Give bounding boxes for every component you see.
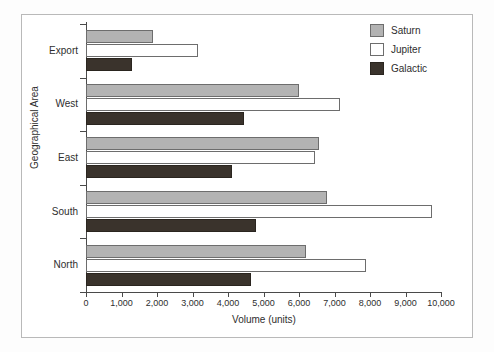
bar-jupiter-north — [86, 259, 366, 272]
x-axis-tick — [299, 292, 300, 297]
x-axis-tick-label: 6,000 — [288, 298, 311, 308]
y-axis-label-export: Export — [49, 45, 78, 56]
x-axis-tick-label: 7,000 — [323, 298, 346, 308]
x-axis-tick — [335, 292, 336, 297]
x-axis-tick — [157, 292, 158, 297]
legend-label: Jupiter — [391, 44, 421, 55]
bar-galactic-west — [86, 112, 244, 125]
legend-swatch-jupiter-icon — [370, 43, 384, 56]
x-axis-tick-label: 1,000 — [110, 298, 133, 308]
y-axis-tick — [80, 185, 87, 186]
bar-saturn-south — [86, 191, 327, 204]
x-axis-tick-label: 3,000 — [181, 298, 204, 308]
x-axis-tick — [122, 292, 123, 297]
legend-item-jupiter[interactable]: Jupiter — [370, 41, 462, 58]
x-axis-tick-label: 9,000 — [394, 298, 417, 308]
x-axis-title: Volume (units) — [86, 314, 442, 325]
bar-chart-figure: ExportWestEastSouthNorth Geographical Ar… — [0, 0, 494, 352]
y-axis-label-west: West — [55, 98, 78, 109]
bar-saturn-north — [86, 245, 306, 258]
y-axis-tick — [80, 78, 87, 79]
legend-swatch-saturn-icon — [370, 24, 384, 37]
bar-jupiter-south — [86, 205, 432, 218]
bar-group — [86, 238, 441, 292]
x-axis-tick-label: 2,000 — [146, 298, 169, 308]
bar-group — [86, 78, 441, 132]
y-axis-tick — [80, 131, 87, 132]
y-axis-title: Geographical Area — [29, 58, 40, 198]
bar-group — [86, 185, 441, 239]
x-axis-tick-label: 4,000 — [217, 298, 240, 308]
x-axis-tick — [264, 292, 265, 297]
y-axis-tick — [80, 24, 87, 25]
legend-label: Saturn — [391, 25, 420, 36]
chart-legend: SaturnJupiterGalactic — [370, 22, 462, 79]
x-axis-tick-label: 8,000 — [359, 298, 382, 308]
x-axis-tick-label: 5,000 — [252, 298, 275, 308]
y-axis-tick — [80, 292, 87, 293]
bar-galactic-east — [86, 165, 232, 178]
bar-saturn-export — [86, 30, 153, 43]
y-axis-label-east: East — [58, 152, 78, 163]
bar-galactic-north — [86, 273, 251, 286]
bar-jupiter-west — [86, 98, 340, 111]
x-axis-tick — [193, 292, 194, 297]
x-axis-tick — [441, 292, 442, 297]
legend-label: Galactic — [391, 63, 427, 74]
bar-galactic-south — [86, 219, 256, 232]
bar-saturn-west — [86, 84, 299, 97]
y-axis-label-south: South — [52, 206, 78, 217]
x-axis-tick — [370, 292, 371, 297]
y-axis-tick — [80, 238, 87, 239]
legend-item-galactic[interactable]: Galactic — [370, 60, 462, 77]
bar-jupiter-export — [86, 44, 198, 57]
x-axis-tick — [228, 292, 229, 297]
bar-group — [86, 131, 441, 185]
bar-jupiter-east — [86, 151, 315, 164]
legend-item-saturn[interactable]: Saturn — [370, 22, 462, 39]
x-axis-tick-label: 0 — [83, 298, 88, 308]
x-axis-tick-label: 10,000 — [427, 298, 455, 308]
x-axis-tick — [406, 292, 407, 297]
bar-saturn-east — [86, 137, 319, 150]
bar-galactic-export — [86, 58, 132, 71]
legend-swatch-galactic-icon — [370, 62, 384, 75]
y-axis-label-north: North — [54, 259, 78, 270]
